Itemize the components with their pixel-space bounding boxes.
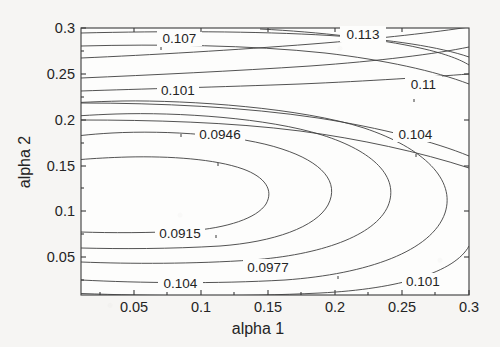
x-tick-label-1: 0.05: [120, 299, 148, 315]
x-tick-label-2: 0.1: [191, 299, 211, 315]
x-tick-label-3: 0.15: [254, 299, 282, 315]
contour-label-0.101-upper: 0.101: [161, 83, 195, 98]
contour-plot-figure: 0.107 0.113 0.101 0.11 0.0946 0.104 0.09…: [0, 0, 500, 347]
x-tick-label-5: 0.25: [388, 299, 416, 315]
contour-label-0.104-right: 0.104: [399, 127, 433, 142]
y-tick-label-2: 0.1: [55, 203, 75, 219]
y-tick-label-3: 0.15: [47, 158, 75, 174]
y-tick-label-1: 0.05: [47, 249, 75, 265]
y-axis-title: alpha 2: [16, 136, 33, 189]
contour-label-0.107: 0.107: [163, 31, 197, 46]
y-tick-label-4: 0.2: [55, 112, 75, 128]
y-tick-label-6: 0.3: [55, 20, 75, 36]
contour-label-0.0977: 0.0977: [247, 260, 288, 275]
contour-label-0.101-lower: 0.101: [406, 274, 440, 289]
contour-label-0.113: 0.113: [347, 27, 380, 42]
contour-label-0.0915: 0.0915: [159, 226, 200, 241]
y-tick-label-5: 0.25: [47, 66, 75, 82]
contour-label-0.11: 0.11: [411, 77, 436, 92]
x-tick-label-6: 0.3: [459, 299, 479, 315]
x-axis-title: alpha 1: [232, 320, 285, 337]
contour-label-0.0946: 0.0946: [199, 127, 240, 142]
contour-label-0.104-lower: 0.104: [164, 276, 198, 291]
x-tick-label-4: 0.2: [325, 299, 345, 315]
